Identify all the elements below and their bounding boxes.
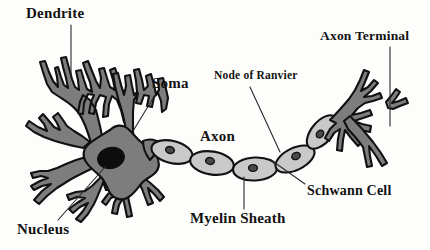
myelin-segment-2 (188, 148, 235, 178)
schwann-nucleus-2 (205, 157, 215, 165)
label-dendrite: Dendrite (26, 6, 84, 21)
label-soma: Soma (152, 76, 189, 91)
axon-terminal-long-branch (344, 116, 387, 167)
leader-node-ranvier (250, 87, 280, 152)
label-axon-terminal: Axon Terminal (320, 29, 409, 43)
myelinated-axon-group (149, 110, 343, 182)
axon-terminal-group (325, 70, 408, 167)
label-schwann-cell: Schwann Cell (307, 184, 391, 198)
dendrite-left-lateral (26, 113, 90, 148)
axon-terminal-twig (386, 89, 408, 109)
neuron-diagram: Dendrite Soma Node of Ranvier Axon Termi… (0, 0, 430, 250)
axon-terminal-branches (325, 70, 382, 151)
label-nucleus: Nucleus (17, 222, 69, 237)
dendrite-lower-center (67, 172, 106, 222)
label-myelin-sheath: Myelin Sheath (190, 211, 286, 226)
schwann-nucleus-3 (249, 165, 258, 172)
label-node-of-ranvier: Node of Ranvier (214, 70, 298, 82)
label-axon: Axon (200, 129, 235, 144)
soma-and-dendrites-group (26, 57, 168, 222)
